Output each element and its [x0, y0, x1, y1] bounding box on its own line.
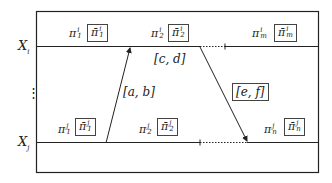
xj-seg2-plain: π j2: [139, 124, 152, 136]
pi-symbol: π: [264, 124, 271, 135]
pibar-symbol: π̄: [161, 121, 168, 132]
xj-seg3-plain: π jn: [264, 124, 277, 136]
pibar-symbol: π̄: [79, 121, 86, 132]
pibar-symbol: π̄: [278, 27, 285, 38]
xj-seg3-boxed: π̄ jn: [284, 118, 305, 136]
message-label-cd: [c, d]: [154, 53, 185, 65]
pibar-sub: 2: [180, 33, 184, 39]
row-label-xj-main: X: [18, 134, 27, 149]
pibar-symbol: π̄: [288, 121, 295, 132]
row-label-xi-main: X: [18, 38, 27, 53]
pibar-symbol: π̄: [172, 27, 179, 38]
pi-symbol: π: [151, 28, 158, 39]
pi-sub: m: [260, 34, 267, 40]
pibar-sub: 1: [99, 33, 103, 39]
xi-seg3-boxed: π̄ im: [274, 24, 297, 42]
xj-seg2-boxed: π̄ j2: [157, 118, 178, 136]
pibar-symbol: π̄: [91, 27, 98, 38]
xj-seg1-boxed: π̄ j1: [75, 118, 96, 136]
row-label-xi-sub: i: [27, 48, 29, 56]
xi-seg2-boxed: π̄ i2: [168, 24, 189, 42]
pi-symbol: π: [252, 28, 259, 39]
pibar-sub: 1: [87, 127, 91, 133]
pibar-sub: 2: [169, 127, 173, 133]
pi-sub: 1: [66, 130, 70, 136]
xj-seg1-plain: π j1: [58, 124, 71, 136]
pi-sub: 2: [147, 130, 151, 136]
pi-sub: n: [272, 130, 277, 136]
pi-symbol: π: [58, 124, 65, 135]
xi-seg1-plain: π i1: [69, 28, 82, 40]
pi-sub: 2: [159, 34, 163, 40]
pi-sub: 1: [77, 34, 81, 40]
vertical-ellipsis: ⋮: [27, 86, 40, 99]
pi-symbol: π: [69, 28, 76, 39]
xi-seg3-plain: π im: [252, 28, 267, 40]
row-label-xj-sub: j: [27, 144, 29, 152]
pibar-sub: m: [286, 33, 293, 39]
pibar-sub: n: [296, 127, 301, 133]
xi-seg2-plain: π i2: [151, 28, 164, 40]
pi-symbol: π: [139, 124, 146, 135]
message-label-ef: [e, f]: [232, 83, 269, 101]
row-label-xi: Xi: [18, 39, 30, 56]
message-label-ab: [a, b]: [123, 86, 155, 98]
xi-seg1-boxed: π̄ i1: [87, 24, 108, 42]
row-label-xj: Xj: [18, 135, 29, 152]
